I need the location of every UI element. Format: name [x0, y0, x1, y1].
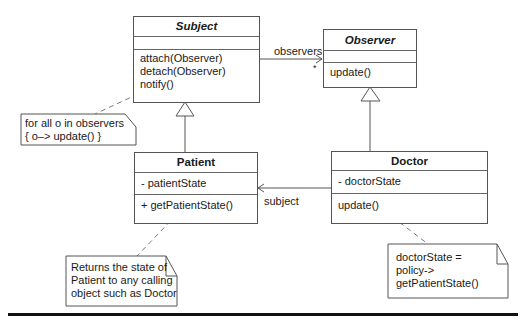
multiplicity-label: *	[313, 63, 317, 73]
operation: update()	[338, 199, 487, 212]
class-attributes: - patientState	[135, 173, 257, 195]
role-label-observers: observers	[274, 45, 322, 57]
class-name: Patient	[135, 153, 257, 173]
class-name: Observer	[324, 30, 416, 51]
class-operations: attach(Observer) detach(Observer) notify…	[134, 52, 259, 91]
hollow-triangle-icon	[176, 102, 194, 116]
operation: attach(Observer)	[140, 52, 259, 65]
operation: update()	[330, 66, 416, 79]
note-notify: for all o in observers { o–> update() }	[25, 117, 124, 143]
generalization-doctor-observer	[361, 87, 380, 151]
operation: + getPatientState()	[141, 199, 257, 212]
operation: detach(Observer)	[140, 65, 259, 78]
generalization-patient-subject	[176, 102, 194, 152]
class-name: Subject	[134, 17, 259, 37]
class-operations: + getPatientState()	[135, 199, 257, 212]
hollow-triangle-icon	[361, 87, 380, 101]
attribute: - patientState	[141, 177, 257, 190]
role-label-subject: subject	[264, 195, 299, 207]
class-name: Doctor	[332, 152, 487, 171]
operation: notify()	[140, 78, 259, 91]
class-subject[interactable]: Subject attach(Observer) detach(Observer…	[133, 16, 260, 103]
attribute: - doctorState	[338, 175, 487, 188]
class-attributes	[134, 37, 259, 50]
class-observer[interactable]: Observer update()	[323, 29, 417, 88]
class-attributes: - doctorState	[332, 171, 487, 194]
note-anchor-notify	[95, 94, 138, 114]
class-operations: update()	[332, 199, 487, 212]
class-operations: update()	[324, 66, 416, 79]
class-attributes	[324, 51, 416, 63]
note-doctor: doctorState = policy-> getPatientState()	[396, 251, 479, 290]
note-patient: Returns the state of Patient to any call…	[71, 261, 177, 300]
class-patient[interactable]: Patient - patientState + getPatientState…	[134, 152, 258, 224]
association-subject	[258, 184, 331, 192]
class-doctor[interactable]: Doctor - doctorState update()	[331, 151, 488, 224]
bottom-rule	[8, 313, 518, 316]
